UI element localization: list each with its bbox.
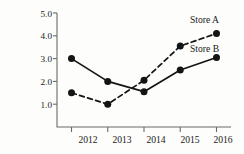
data-point <box>104 78 111 85</box>
plot-area <box>0 0 244 154</box>
series-store-b <box>68 54 220 95</box>
data-point <box>141 88 148 95</box>
data-point <box>104 101 111 108</box>
data-point <box>213 54 220 61</box>
data-point <box>68 89 75 96</box>
line-chart: Annual Sales (in millions of dollars) 5.… <box>0 0 244 154</box>
data-point <box>68 55 75 62</box>
series-store-a <box>68 30 220 108</box>
series-layer <box>68 30 220 108</box>
axes <box>53 13 231 132</box>
data-point <box>177 43 184 50</box>
data-point <box>213 30 220 37</box>
data-point <box>177 67 184 74</box>
data-point <box>141 77 148 84</box>
series-line-store-b <box>72 57 217 91</box>
